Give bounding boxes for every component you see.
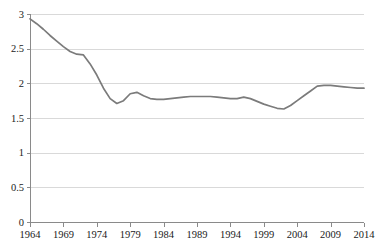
y-tick-labels: 00.511.522.53 [11,9,24,228]
x-tick-label-1984: 1984 [153,229,175,240]
x-tick-label-1999: 1999 [253,229,274,240]
y-tick-label-2: 2 [19,78,24,89]
y-tick-label-1: 1 [19,147,24,158]
y-tick-label-1.5: 1.5 [11,113,24,124]
x-tick-label-1974: 1974 [86,229,108,240]
x-tick-label-1969: 1969 [53,229,74,240]
data-line-series-0 [30,19,364,109]
data-series [30,19,364,109]
gridlines [30,15,364,188]
y-tick-label-0: 0 [19,217,24,228]
x-tick-label-2004: 2004 [287,229,309,240]
x-tick-label-1989: 1989 [187,229,208,240]
x-tick-label-2014: 2014 [354,229,376,240]
y-tick-label-3: 3 [19,9,24,20]
x-tick-label-1964: 1964 [20,229,42,240]
y-tick-label-2.5: 2.5 [11,43,24,54]
y-tick-marks [27,15,31,223]
y-tick-label-0.5: 0.5 [11,182,24,193]
x-tick-marks [31,223,365,227]
x-tick-label-2009: 2009 [320,229,341,240]
line-chart: 00.511.522.53 19641969197419791984198919… [0,0,380,243]
x-tick-labels: 1964196919741979198419891994199920042009… [20,229,376,240]
x-tick-label-1994: 1994 [220,229,242,240]
x-tick-label-1979: 1979 [120,229,141,240]
chart-container: 00.511.522.53 19641969197419791984198919… [0,0,380,243]
